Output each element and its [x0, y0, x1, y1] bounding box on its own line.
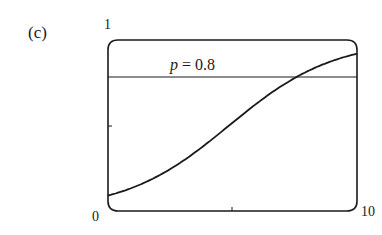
- chart-plot: [0, 0, 382, 235]
- logistic-curve: [108, 54, 357, 196]
